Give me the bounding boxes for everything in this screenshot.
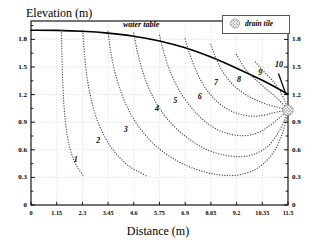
chart-figure: Elevation (m) Distance (m) water table d… [0,0,316,243]
legend-marker-layer [0,0,316,243]
